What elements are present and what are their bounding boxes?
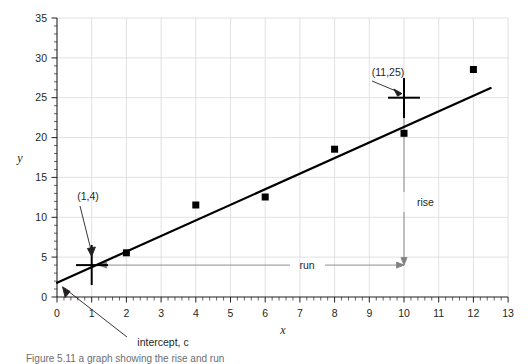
data-point	[262, 194, 269, 201]
point-label-11-25: (11,25)	[372, 66, 405, 78]
x-tick-label: 5	[228, 307, 234, 319]
x-tick-label: 12	[468, 307, 480, 319]
intercept-label: intercept, c	[137, 336, 188, 348]
y-tick-label: 0	[41, 291, 47, 303]
x-tick-label: 11	[433, 307, 444, 319]
data-point	[123, 249, 130, 256]
x-tick-label: 1	[89, 307, 95, 319]
data-point	[401, 130, 408, 137]
y-axis-title: y	[16, 151, 23, 165]
data-point	[192, 202, 199, 209]
x-tick-label: 9	[366, 307, 372, 319]
x-tick-label: 7	[297, 307, 303, 319]
x-tick-label: 3	[158, 307, 164, 319]
x-tick-label: 0	[54, 307, 60, 319]
x-tick-label: 10	[398, 307, 410, 319]
y-tick-label: 35	[35, 12, 47, 24]
y-tick-label: 20	[35, 131, 47, 143]
y-tick-label: 25	[35, 91, 47, 103]
figure-caption: Figure 5.11 a graph showing the rise and…	[26, 353, 224, 364]
x-tick-label: 6	[262, 307, 268, 319]
data-point	[331, 146, 338, 153]
data-point	[470, 66, 477, 73]
x-tick-label: 2	[123, 307, 129, 319]
rise-label: rise	[417, 196, 434, 208]
x-axis-title: x	[279, 323, 286, 337]
y-tick-label: 10	[35, 211, 47, 223]
x-tick-label: 8	[332, 307, 338, 319]
point-label-1-4: (1,4)	[77, 190, 99, 202]
y-tick-label: 30	[35, 52, 47, 64]
x-tick-label: 4	[193, 307, 199, 319]
y-tick-label: 5	[41, 251, 47, 263]
chart-svg: 0 5 10 15 20 25 30 35 0 1 2 3 4 5 6 7 8 …	[0, 0, 528, 364]
x-tick-label: 13	[502, 307, 514, 319]
y-tick-label: 15	[35, 171, 47, 183]
run-label: run	[299, 259, 314, 271]
figure-graph-rise-run: 0 5 10 15 20 25 30 35 0 1 2 3 4 5 6 7 8 …	[0, 0, 528, 364]
